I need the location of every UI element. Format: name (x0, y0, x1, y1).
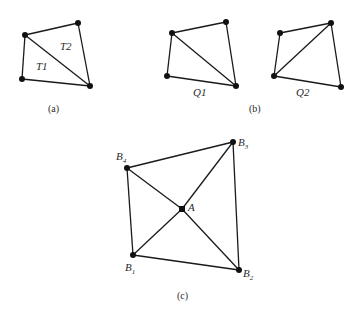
edge (280, 23, 331, 33)
edge (25, 23, 78, 35)
vertex (169, 30, 175, 36)
vertex (271, 73, 277, 79)
edge-a-b2 (182, 209, 239, 270)
panel-b-q1: Q1 (164, 19, 239, 98)
edge-b4-b3 (127, 142, 233, 168)
vertex (223, 19, 229, 25)
vertex (338, 84, 344, 90)
caption-a: (a) (48, 103, 59, 115)
vertex-b4 (124, 165, 130, 171)
edge (172, 22, 226, 33)
vertex (19, 76, 25, 82)
label-b4: B4 (116, 150, 127, 165)
diagonal-edge (25, 35, 90, 86)
vertex-b1 (130, 252, 136, 258)
vertex-a (179, 206, 185, 212)
vertex (233, 83, 239, 89)
label-b2: B2 (243, 267, 254, 282)
edge (22, 35, 25, 79)
vertex (87, 83, 93, 89)
label-a: A (187, 201, 195, 213)
vertex-b2 (236, 267, 242, 273)
panel-c: B4 B3 A B1 B2 (c) (116, 136, 254, 302)
edge-b3-b2 (233, 142, 239, 270)
vertex (22, 32, 28, 38)
quad-label-q2: Q2 (296, 86, 310, 98)
edge (226, 22, 236, 86)
edge (78, 23, 90, 86)
diagonal-edge (274, 23, 331, 76)
region-label-t2: T2 (60, 40, 72, 52)
edge-a-b1 (133, 209, 182, 255)
panel-a: T2 T1 (a) (19, 20, 93, 115)
edge (331, 23, 341, 87)
vertex (75, 20, 81, 26)
edge (167, 33, 172, 76)
label-b3: B3 (238, 136, 249, 151)
vertex-b3 (230, 139, 236, 145)
vertex (164, 73, 170, 79)
label-b1: B1 (125, 261, 135, 276)
edge-b2-b1 (133, 255, 239, 270)
edge (274, 33, 280, 76)
quad-label-q1: Q1 (193, 86, 206, 98)
edge-b4-a (127, 168, 182, 209)
caption-b: (b) (249, 103, 261, 115)
figure-canvas: T2 T1 (a) Q1 Q2 (b) (0, 0, 356, 317)
edge-b1-b4 (127, 168, 133, 255)
vertex (328, 20, 334, 26)
region-label-t1: T1 (36, 60, 48, 72)
panel-b-q2: Q2 (271, 20, 344, 98)
vertex (277, 30, 283, 36)
edge (22, 79, 90, 86)
caption-c: (c) (177, 290, 188, 302)
